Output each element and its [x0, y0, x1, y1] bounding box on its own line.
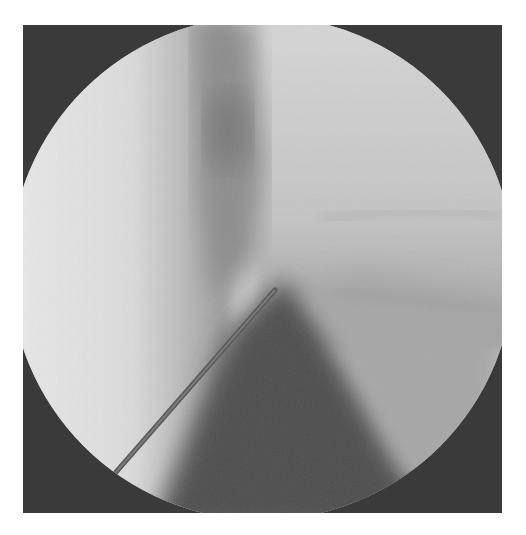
fluoroscopy-image	[23, 25, 502, 513]
xray-frame	[23, 25, 502, 513]
field-of-view	[23, 25, 502, 513]
